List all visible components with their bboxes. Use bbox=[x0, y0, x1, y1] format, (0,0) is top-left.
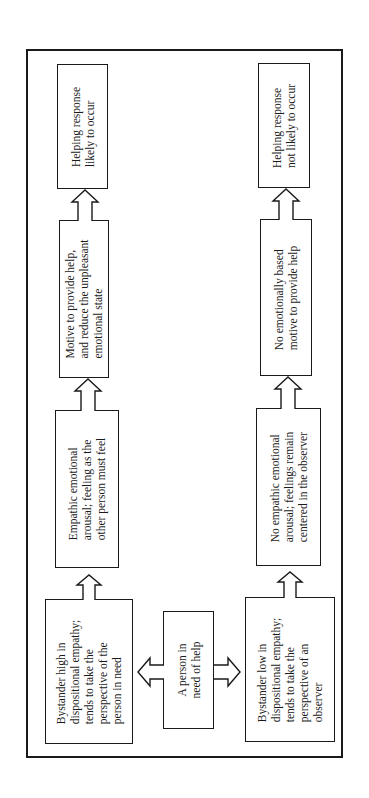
text-line: emotional state bbox=[91, 239, 105, 358]
no-emotional-motive-text: No emotionally based motive to provide h… bbox=[272, 245, 300, 349]
motive-to-help-box: Motive to provide help, and reduce the u… bbox=[59, 220, 109, 378]
text-line: observer bbox=[311, 617, 325, 721]
text-line: perspective of an bbox=[297, 617, 311, 721]
text-line: Empathic emotional bbox=[66, 438, 80, 541]
text-line: arousal; feeling as the bbox=[80, 438, 94, 541]
text-line: person in need bbox=[110, 619, 124, 723]
text-line: arousal; feelings remain bbox=[282, 432, 296, 543]
arrow-up-icon bbox=[277, 571, 303, 598]
bystander-high-empathy-box: Bystander high in dispositional empathy;… bbox=[45, 599, 133, 744]
text-line: tends to take the bbox=[82, 619, 96, 723]
text-line: Bystander low in bbox=[255, 617, 269, 721]
no-empathic-arousal-text: No empathic emotional arousal; feelings … bbox=[268, 432, 310, 543]
no-empathic-arousal-box: No empathic emotional arousal; feelings … bbox=[256, 408, 321, 566]
motive-to-help-text: Motive to provide help, and reduce the u… bbox=[63, 239, 105, 358]
bystander-high-empathy-text: Bystander high in dispositional empathy;… bbox=[54, 619, 124, 723]
text-line: Helping response bbox=[270, 84, 284, 168]
text-line: Bystander high in bbox=[54, 619, 68, 723]
text-line: Helping response bbox=[69, 86, 83, 166]
arrow-up-icon bbox=[273, 376, 303, 409]
double-arrow-icon bbox=[137, 657, 241, 687]
arrow-up-icon bbox=[271, 188, 301, 220]
outcome-helping-not-likely-text: Helping response not likely to occur bbox=[270, 84, 298, 168]
text-line: not likely to occur bbox=[284, 84, 298, 168]
empathic-arousal-box: Empathic emotional arousal; feeling as t… bbox=[55, 410, 119, 568]
text-line: and reduce the unpleasant bbox=[77, 239, 91, 358]
text-line: centered in the observer bbox=[296, 432, 310, 543]
bystander-low-empathy-text: Bystander low in dispositional empathy; … bbox=[255, 617, 325, 721]
arrow-up-icon bbox=[76, 574, 102, 600]
outcome-helping-likely-text: Helping response likely to occur bbox=[69, 86, 97, 166]
text-line: tends to take the bbox=[283, 617, 297, 721]
text-line: likely to occur bbox=[83, 86, 97, 166]
arrow-up-icon bbox=[73, 378, 103, 411]
no-emotional-motive-box: No emotionally based motive to provide h… bbox=[260, 219, 312, 376]
outcome-helping-likely-box: Helping response likely to occur bbox=[57, 64, 108, 189]
text-line: No emotionally based bbox=[272, 245, 286, 349]
text-line: dispositional empathy; bbox=[269, 617, 283, 721]
text-line: Motive to provide help, bbox=[63, 239, 77, 358]
arrow-up-icon bbox=[70, 189, 100, 221]
text-line: perspective of the bbox=[96, 619, 110, 723]
text-line: other person must feel bbox=[94, 438, 108, 541]
empathic-arousal-text: Empathic emotional arousal; feeling as t… bbox=[66, 438, 108, 541]
bystander-low-empathy-box: Bystander low in dispositional empathy; … bbox=[245, 597, 335, 742]
outcome-helping-not-likely-box: Helping response not likely to occur bbox=[258, 63, 310, 188]
text-line: motive to provide help bbox=[286, 245, 300, 349]
text-line: No empathic emotional bbox=[268, 432, 282, 543]
text-line: dispositional empathy; bbox=[68, 619, 82, 723]
